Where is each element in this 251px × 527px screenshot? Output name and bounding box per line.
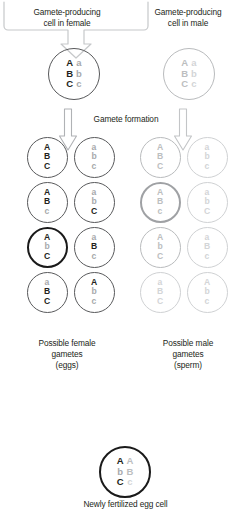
allele: C [44,162,50,171]
allele-pairs: A b C A B c [117,456,134,488]
allele-pairs: ABc [157,188,163,216]
allele: C [91,207,97,216]
female-gamete-4: abC [74,182,115,223]
allele-column: abc [204,143,209,171]
male-gamete-2: abc [187,137,228,178]
fertilized-egg-cell: A b C A B c [99,446,151,498]
allele-pairs: ABC [157,143,163,171]
female-parent-cell: A B C a b c [48,48,100,100]
male-gamete-5: AbC [140,227,181,268]
allele-column: AbC [44,233,50,261]
allele-pairs: abc [91,143,96,171]
allele: c [205,162,210,171]
allele-column-maternal: A B C [66,58,73,90]
allele: C [157,162,163,171]
allele: C [44,297,50,306]
allele-pairs: aBC [157,278,163,306]
male-gametes-line2: gametes [172,349,203,359]
allele: C [157,297,163,306]
gamete-formation-label: Gamete formation [78,114,174,125]
female-gamete-1: ABC [27,137,68,178]
female-gamete-2: abc [74,137,115,178]
allele-pairs: AbC [157,233,163,261]
allele-pairs: A B C a b c [66,58,82,90]
male-gametes-line1: Possible male [163,338,213,348]
allele: C [204,207,210,216]
female-parent-label: Gamete-producing cell in female [12,7,122,29]
allele-column-maternal: A B C [181,58,188,90]
male-gamete-3: ABc [140,182,181,223]
allele-pairs: abc [204,143,209,171]
allele-pairs: ABc [44,188,50,216]
female-gametes-label: Possible female gametes (eggs) [12,338,122,371]
fertilized-egg-label: Newly fertilized egg cell [0,499,251,510]
allele-column-paternal: a b c [76,58,82,90]
allele-column-paternal: a b c [191,58,197,90]
allele: c [92,162,97,171]
female-gamete-6: aBc [74,227,115,268]
allele-column: AbC [157,233,163,261]
male-gametes-label: Possible male gametes (sperm) [133,338,243,371]
allele-column: Abc [91,278,97,306]
allele: c [191,79,196,90]
male-parent-label-line1: Gamete-producing [154,7,221,17]
female-gamete-8: Abc [74,272,115,313]
allele-column: aBc [204,233,210,261]
allele: c [92,252,97,261]
allele-column: Abc [204,278,210,306]
allele: C [66,79,73,90]
allele: c [127,477,132,488]
allele: c [158,207,163,216]
allele-column: ABc [44,188,50,216]
male-gametes-line3: (sperm) [174,360,202,370]
allele-column: abC [91,188,97,216]
allele: C [157,252,163,261]
male-gamete-1: ABC [140,137,181,178]
female-gametes-line1: Possible female [38,338,95,348]
allele-pairs: AbC [44,233,50,261]
allele-column: ABC [157,143,163,171]
male-parent-cell: A B C a b c [163,48,215,100]
male-gamete-8: Abc [187,272,228,313]
allele-pairs: abC [204,188,210,216]
genetics-diagram: Gamete-producing cell in female Gamete-p… [0,0,251,527]
allele-column: ABc [157,188,163,216]
male-gamete-6: aBc [187,227,228,268]
allele: c [92,297,97,306]
allele: c [205,297,210,306]
allele-pairs: abC [91,188,97,216]
allele-column: abC [204,188,210,216]
allele: C [181,79,188,90]
female-gametes-line3: (eggs) [56,360,79,370]
female-parent-label-line2: cell in female [43,18,90,28]
female-gametes-line2: gametes [51,349,82,359]
male-parent-label-line2: cell in male [168,18,208,28]
female-gamete-7: aBC [27,272,68,313]
allele-column-paternal: A B c [127,456,134,488]
female-parent-label-line1: Gamete-producing [33,7,100,17]
allele-column: abc [91,143,96,171]
allele-pairs: ABC [44,143,50,171]
allele-column-maternal: A b C [117,456,124,488]
allele-pairs: aBc [204,233,210,261]
allele: c [205,252,210,261]
allele-pairs: A B C a b c [181,58,197,90]
allele-pairs: aBC [44,278,50,306]
allele: c [76,79,81,90]
male-gamete-4: abC [187,182,228,223]
allele-column: aBC [44,278,50,306]
allele: C [44,252,50,261]
allele-pairs: Abc [91,278,97,306]
allele: C [117,477,124,488]
allele: c [45,207,50,216]
allele-pairs: aBc [91,233,97,261]
allele-column: ABC [44,143,50,171]
male-gamete-7: aBC [140,272,181,313]
male-parent-label: Gamete-producing cell in male [133,7,243,29]
allele-pairs: Abc [204,278,210,306]
allele-column: aBc [91,233,97,261]
allele-column: aBC [157,278,163,306]
female-gamete-5: AbC [27,227,68,268]
female-gamete-3: ABc [27,182,68,223]
